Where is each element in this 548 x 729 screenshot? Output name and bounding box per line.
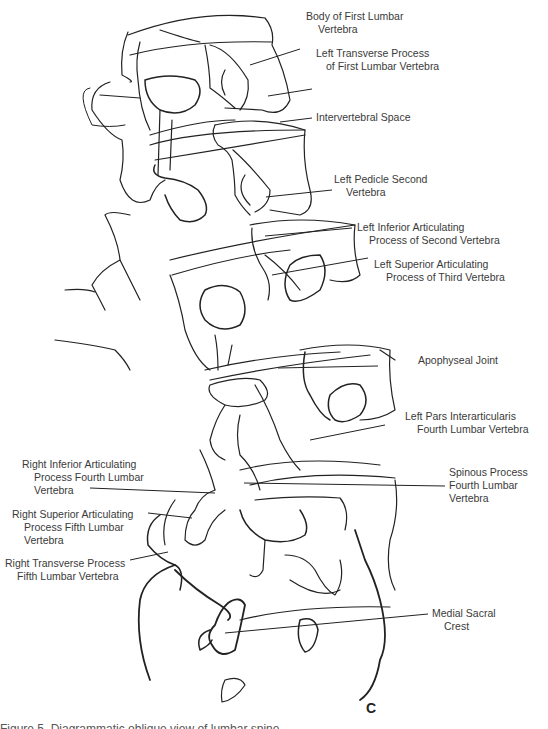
label-line: Apophyseal Joint <box>418 354 498 367</box>
label-line: Process Fifth Lumbar <box>12 521 133 534</box>
label-line: Vertebra <box>334 186 427 199</box>
label-left-pedicle-second: Left Pedicle Second Vertebra <box>334 173 427 199</box>
label-line: Spinous Process <box>449 466 528 479</box>
label-left-superior-articulating-third: Left Superior Articulating Process of Th… <box>374 258 505 284</box>
label-line: Process of Second Vertebra <box>357 234 500 247</box>
label-line: Fourth Lumbar Vertebra <box>405 423 528 436</box>
vertebra-l1 <box>83 15 290 202</box>
figure-caption-cutoff: Figure 5. Diagrammatic oblique view of l… <box>0 722 548 729</box>
label-line: Fifth Lumbar Vertebra <box>5 570 125 583</box>
label-line: Medial Sacral <box>432 607 496 620</box>
vertebra-l2 <box>105 110 311 300</box>
label-line: Vertebra <box>306 23 403 36</box>
label-line: Left Superior Articulating <box>374 258 505 271</box>
label-right-superior-articulating-fifth: Right Superior Articulating Process Fift… <box>12 508 133 547</box>
label-right-transverse-fifth: Right Transverse Process Fifth Lumbar Ve… <box>5 557 125 583</box>
label-left-transverse-first: Left Transverse Process of First Lumbar … <box>316 47 439 73</box>
label-line: Intervertebral Space <box>316 111 411 124</box>
label-left-pars-interarticularis: Left Pars Interarticularis Fourth Lumbar… <box>405 410 528 436</box>
label-intervertebral-space: Intervertebral Space <box>316 111 411 124</box>
label-line: Left Transverse Process <box>316 47 439 60</box>
label-spinous-process-fourth: Spinous Process Fourth Lumbar Vertebra <box>449 466 528 505</box>
label-body-first-lumbar: Body of First Lumbar Vertebra <box>306 10 403 36</box>
label-line: Body of First Lumbar <box>306 10 403 23</box>
label-line: Fourth Lumbar <box>449 479 528 492</box>
label-line: Process of Third Vertebra <box>374 271 505 284</box>
panel-letter: C <box>366 700 376 716</box>
label-line: Left Pedicle Second <box>334 173 427 186</box>
leader-lines <box>90 49 445 633</box>
label-line: Left Pars Interarticularis <box>405 410 528 423</box>
sacrum <box>139 565 390 702</box>
label-line: of First Lumbar Vertebra <box>316 60 439 73</box>
label-right-inferior-articulating-fourth: Right Inferior Articulating Process Four… <box>22 458 144 497</box>
label-line: Vertebra <box>22 484 144 497</box>
label-line: Right Inferior Articulating <box>22 458 144 471</box>
label-medial-sacral-crest: Medial Sacral Crest <box>432 607 496 633</box>
label-apophyseal-joint: Apophyseal Joint <box>418 354 498 367</box>
label-line: Vertebra <box>449 492 528 505</box>
label-line: Process Fourth Lumbar <box>22 471 144 484</box>
label-line: Crest <box>432 620 496 633</box>
label-line: Left Inferior Articulating <box>357 221 500 234</box>
label-line: Right Transverse Process <box>5 557 125 570</box>
label-line: Vertebra <box>12 534 133 547</box>
vertebra-l4 <box>200 345 395 490</box>
label-line: Right Superior Articulating <box>12 508 133 521</box>
label-left-inferior-articulating-second: Left Inferior Articulating Process of Se… <box>357 221 500 247</box>
